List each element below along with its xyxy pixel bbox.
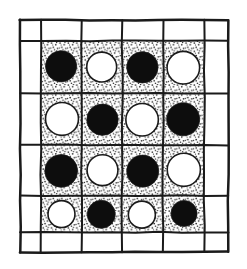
black-disc xyxy=(45,155,78,188)
grid-line-vertical xyxy=(163,20,164,252)
grid-line-horizontal xyxy=(20,232,228,233)
grid-line-horizontal xyxy=(20,195,228,196)
white-disc xyxy=(167,51,200,84)
figure-root: Hand-drawn 6 by 6 square grid. The outer… xyxy=(0,0,247,269)
white-disc xyxy=(46,102,79,135)
white-disc xyxy=(126,103,159,136)
white-disc xyxy=(167,153,200,186)
white-disc xyxy=(128,201,155,228)
grid-line-vertical xyxy=(40,20,41,253)
black-disc xyxy=(127,155,159,187)
black-disc xyxy=(46,51,77,82)
grid-line-horizontal xyxy=(20,93,227,94)
grid-line-horizontal xyxy=(20,252,228,253)
grid-line-vertical xyxy=(20,20,21,252)
black-disc xyxy=(127,52,158,83)
black-disc xyxy=(167,103,200,136)
white-disc xyxy=(87,52,117,82)
white-disc xyxy=(48,201,75,228)
grid-line-vertical xyxy=(81,20,82,252)
grid-line-vertical xyxy=(204,20,205,252)
grid-diagram xyxy=(0,0,247,269)
white-disc xyxy=(87,155,118,186)
grid-line-vertical xyxy=(228,20,229,251)
grid-line-horizontal xyxy=(20,40,227,41)
black-disc xyxy=(87,104,118,135)
grid-line-horizontal xyxy=(20,144,228,145)
black-disc xyxy=(87,200,115,228)
grid-line-vertical xyxy=(122,20,123,252)
grid-line-horizontal xyxy=(20,20,228,21)
black-disc xyxy=(171,200,197,226)
